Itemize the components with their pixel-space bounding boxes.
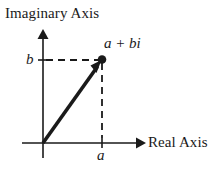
point-marker (98, 55, 107, 64)
real-tick-label-a: a (97, 148, 105, 163)
position-vector-shaft (43, 67, 98, 144)
imaginary-axis-arrowhead (38, 29, 49, 39)
real-axis-title: Real Axis (148, 135, 208, 150)
imaginary-tick-label-b: b (26, 52, 34, 67)
point-label: a + bi (104, 36, 141, 51)
complex-plane-figure: Imaginary Axis Real Axis a + bi b a (0, 0, 221, 177)
imaginary-axis-title: Imaginary Axis (5, 6, 99, 21)
real-axis-arrowhead (136, 138, 146, 149)
plot-area (0, 0, 221, 177)
